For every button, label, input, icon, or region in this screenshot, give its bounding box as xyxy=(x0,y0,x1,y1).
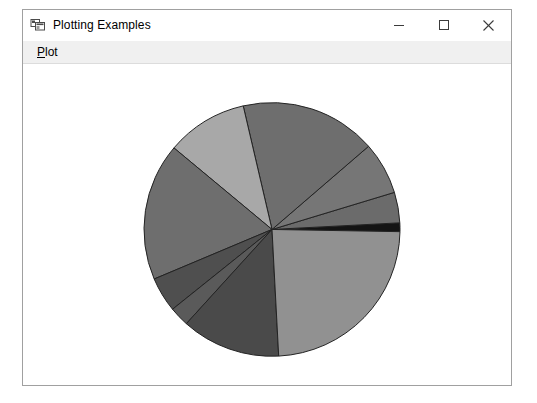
menu-item-plot-accelerator: P xyxy=(37,45,45,59)
plot-client-area xyxy=(23,64,511,385)
window-controls xyxy=(376,10,511,40)
pie-slices xyxy=(144,103,400,357)
minimize-button[interactable] xyxy=(376,10,421,40)
screen: Plotting Examples xyxy=(0,0,537,403)
pie-chart xyxy=(23,64,511,385)
window-title: Plotting Examples xyxy=(53,18,151,32)
maximize-button[interactable] xyxy=(421,10,466,40)
close-icon xyxy=(482,19,495,32)
pie-slice xyxy=(272,229,400,356)
menu-bar: Plot xyxy=(23,41,511,64)
minimize-icon xyxy=(393,19,405,31)
application-window: Plotting Examples xyxy=(22,9,512,386)
menu-item-plot[interactable]: Plot xyxy=(31,43,64,61)
title-bar[interactable]: Plotting Examples xyxy=(23,10,511,41)
application-window-icon xyxy=(30,17,46,33)
menu-item-plot-label-rest: lot xyxy=(45,45,58,59)
close-button[interactable] xyxy=(466,10,511,40)
maximize-icon xyxy=(438,19,450,31)
